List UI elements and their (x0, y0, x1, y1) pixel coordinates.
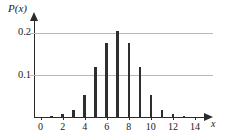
x-tick-mark (173, 117, 174, 120)
bar (105, 43, 108, 117)
x-tick-label: 12 (168, 121, 178, 132)
x-axis-title: x (211, 118, 215, 129)
x-tick-label: 4 (82, 121, 87, 132)
x-tick-mark (129, 117, 130, 120)
bar (94, 67, 97, 117)
bar (150, 95, 153, 117)
x-tick-label: 2 (60, 121, 65, 132)
x-tick-label: 14 (190, 121, 200, 132)
probability-distribution-chart: P(x) x 0.10.2 02468101214 (0, 0, 225, 138)
x-tick-mark (107, 117, 108, 120)
bar (139, 67, 142, 117)
y-axis-title: P(x) (8, 2, 27, 14)
x-axis-ticks: 02468101214 (34, 117, 206, 138)
bar (83, 95, 86, 117)
x-tick-mark (85, 117, 86, 120)
bar (116, 31, 119, 118)
x-tick-mark (195, 117, 196, 120)
bars (34, 20, 206, 118)
x-tick-mark (63, 117, 64, 120)
y-tick-label: 0.2 (18, 26, 31, 37)
x-tick-label: 0 (38, 121, 43, 132)
x-tick-label: 6 (104, 121, 109, 132)
bar (128, 43, 131, 117)
x-tick-mark (41, 117, 42, 120)
x-tick-label: 8 (126, 121, 131, 132)
x-tick-label: 10 (146, 121, 156, 132)
x-tick-mark (151, 117, 152, 120)
y-tick-label: 0.1 (18, 69, 31, 80)
